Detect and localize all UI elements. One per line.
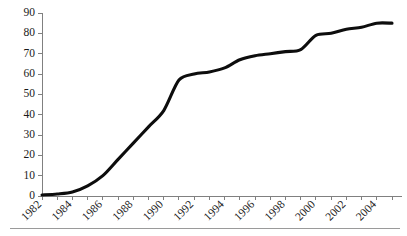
x-tick-label: 2002 [323,198,348,223]
x-tick-label: 1986 [80,198,105,223]
y-tick-label: 40 [24,108,36,120]
x-tick-label: 1982 [19,198,44,223]
x-axis: 1982198419861988199019921994199619982000… [19,196,402,223]
x-tick-label: 1984 [49,198,74,223]
plot-area [42,23,392,195]
y-axis-tick-labels: 0102030405060708090 [24,6,36,201]
y-tick-label: 20 [24,148,36,160]
data-series-line [42,23,392,195]
y-axis-ticks [38,13,42,196]
y-tick-label: 80 [24,26,36,38]
x-axis-tick-labels: 1982198419861988199019921994199619982000… [19,198,379,223]
x-tick-label: 1998 [262,198,287,223]
y-tick-label: 30 [24,128,36,140]
y-axis: 0102030405060708090 [24,6,43,201]
y-tick-label: 60 [24,67,36,79]
x-tick-label: 1994 [201,198,226,223]
x-tick-label: 1992 [171,198,196,223]
y-tick-label: 70 [24,47,36,59]
x-tick-label: 1990 [140,198,165,223]
chart-canvas: 0102030405060708090 19821984198619881990… [0,0,407,236]
y-tick-label: 90 [24,6,36,18]
y-tick-label: 10 [24,169,36,181]
x-tick-label: 1996 [232,198,257,223]
x-tick-label: 1988 [110,198,135,223]
x-tick-label: 2000 [293,198,318,223]
y-tick-label: 50 [24,87,36,99]
x-tick-label: 2004 [353,198,378,223]
line-chart: 0102030405060708090 19821984198619881990… [0,0,407,236]
